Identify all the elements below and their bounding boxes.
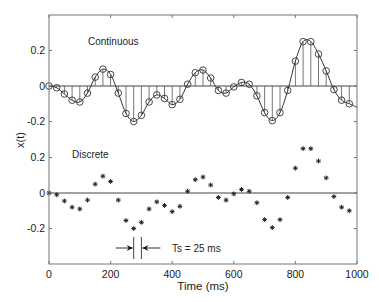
sampling-period-label: Ts = 25 ms [172, 243, 221, 254]
asterisk-marker [339, 205, 344, 210]
continuous-panel-label: Continuous [88, 36, 139, 47]
asterisk-marker [147, 207, 152, 212]
asterisk-marker [139, 220, 144, 225]
y-tick-label: 0.2 [30, 44, 45, 56]
asterisk-marker [193, 177, 198, 182]
asterisk-marker [270, 225, 275, 230]
asterisk-marker [131, 226, 136, 231]
x-tick-label: 600 [225, 268, 243, 280]
asterisk-marker [185, 189, 190, 194]
asterisk-marker [293, 166, 298, 171]
asterisk-marker [93, 182, 98, 187]
y-tick-label: -0.2 [27, 115, 45, 127]
asterisk-marker [278, 217, 283, 222]
asterisk-marker [162, 203, 167, 208]
asterisk-marker [255, 200, 260, 205]
asterisk-marker [285, 195, 290, 200]
asterisk-marker [77, 207, 82, 212]
asterisk-marker [54, 192, 59, 197]
asterisk-marker [178, 204, 183, 209]
asterisk-marker [324, 176, 329, 181]
y-tick-label: 0 [39, 187, 45, 199]
asterisk-marker [154, 199, 159, 204]
asterisk-marker [116, 198, 121, 203]
asterisk-marker [108, 179, 113, 184]
asterisk-marker [347, 208, 352, 213]
asterisk-marker [262, 217, 267, 222]
asterisk-marker [85, 198, 90, 203]
asterisk-marker [239, 187, 244, 192]
sampling-period-annotation: Ts = 25 ms [116, 237, 221, 259]
asterisk-marker [170, 209, 175, 214]
asterisk-marker [201, 175, 206, 180]
asterisk-marker [308, 146, 313, 151]
y-tick-label: 0 [39, 80, 45, 92]
asterisk-marker [332, 194, 337, 199]
x-axis-label: Time (ms) [177, 280, 228, 292]
asterisk-marker [316, 159, 321, 164]
discrete-panel-label: Discrete [72, 149, 109, 160]
asterisk-marker [247, 189, 252, 194]
asterisk-marker [301, 146, 306, 151]
asterisk-marker [216, 195, 221, 200]
asterisk-marker [70, 205, 75, 210]
x-tick-label: 0 [46, 268, 52, 280]
y-tick-label: -0.2 [27, 222, 45, 234]
x-tick-label: 1000 [345, 268, 369, 280]
x-axis: 02004006008001000 [46, 15, 369, 280]
x-tick-label: 800 [287, 268, 305, 280]
asterisk-marker [101, 174, 106, 179]
asterisk-marker [224, 198, 229, 203]
chart: 02004006008001000 0.20-0.20.20-0.2 x(t) … [0, 0, 379, 302]
x-tick-label: 400 [163, 268, 181, 280]
asterisk-marker [124, 218, 129, 223]
y-tick-label: 0.2 [30, 151, 45, 163]
asterisk-marker [208, 183, 213, 188]
plot-area [46, 38, 357, 231]
asterisk-marker [231, 191, 236, 196]
x-tick-label: 200 [102, 268, 120, 280]
y-axis-label: x(t) [14, 132, 26, 148]
asterisk-marker [62, 199, 67, 204]
